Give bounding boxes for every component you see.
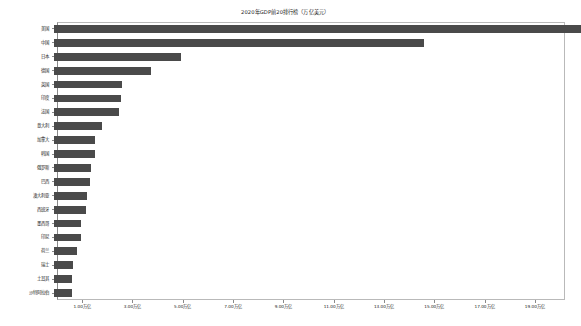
- bar: [54, 234, 81, 242]
- bar-track: [54, 247, 570, 255]
- bar: [54, 289, 72, 297]
- bar-row: 瑞士: [0, 261, 570, 269]
- category-label: 土耳其: [0, 276, 52, 282]
- bar: [54, 67, 151, 75]
- bar: [54, 95, 121, 103]
- bar-row: 加拿大: [0, 136, 570, 144]
- bar-row: 韩国: [0, 150, 570, 158]
- bar: [54, 136, 95, 144]
- bar-row: 西班牙: [0, 206, 570, 214]
- bar-track: [54, 122, 570, 130]
- bar-track: [54, 234, 570, 242]
- bar: [54, 108, 119, 116]
- category-label: 加拿大: [0, 137, 52, 143]
- x-tick-icon: [132, 300, 133, 303]
- bar: [54, 192, 87, 200]
- x-tick-label: 1.00万亿: [73, 304, 90, 310]
- bar: [54, 122, 102, 130]
- bar-track: [54, 25, 570, 33]
- bar-row: 美国: [0, 25, 570, 33]
- x-tick-label: 5.00万亿: [174, 304, 191, 310]
- bar-rows: 美国中国日本德国英国印度法国意大利加拿大韩国俄罗斯巴西澳大利亚西班牙墨西哥印尼荷…: [0, 22, 570, 300]
- bar-row: 澳大利亚: [0, 192, 570, 200]
- x-tick-icon: [233, 300, 234, 303]
- category-label: 日本: [0, 54, 52, 60]
- bar-track: [54, 136, 570, 144]
- bar: [54, 247, 77, 255]
- category-label: 西班牙: [0, 207, 52, 213]
- bar-row: 印尼: [0, 234, 570, 242]
- category-label: 中国: [0, 40, 52, 46]
- chart-title: 2020年GDP前20排行榜（万亿美元）: [0, 9, 570, 16]
- bar-track: [54, 39, 570, 47]
- bar-row: 中国: [0, 39, 570, 47]
- category-label: 巴西: [0, 179, 52, 185]
- x-tick-label: 13.00万亿: [374, 304, 394, 310]
- bar-track: [54, 81, 570, 89]
- x-tick-icon: [535, 300, 536, 303]
- bar-track: [54, 150, 570, 158]
- bar-track: [54, 192, 570, 200]
- x-axis: 1.00万亿3.00万亿5.00万亿7.00万亿9.00万亿11.00万亿13.…: [57, 300, 565, 320]
- category-label: 瑞士: [0, 262, 52, 268]
- category-label: 法国: [0, 109, 52, 115]
- x-tick-label: 11.00万亿: [324, 304, 344, 310]
- category-label: 美国: [0, 26, 52, 32]
- x-tick-icon: [82, 300, 83, 303]
- category-label: 荷兰: [0, 248, 52, 254]
- bar: [54, 53, 181, 61]
- x-tick-icon: [485, 300, 486, 303]
- bar-track: [54, 261, 570, 269]
- bar-row: 英国: [0, 81, 570, 89]
- category-label: 德国: [0, 68, 52, 74]
- bar-row: 印度: [0, 95, 570, 103]
- bar-row: 德国: [0, 67, 570, 75]
- bar-row: 墨西哥: [0, 220, 570, 228]
- bar-track: [54, 164, 570, 172]
- bar-row: 日本: [0, 53, 570, 61]
- bar: [54, 150, 95, 158]
- category-label: 墨西哥: [0, 221, 52, 227]
- category-label: 英国: [0, 82, 52, 88]
- category-label: 沙特阿拉伯: [0, 290, 52, 296]
- bar-row: 沙特阿拉伯: [0, 289, 570, 297]
- bar-row: 俄罗斯: [0, 164, 570, 172]
- x-tick-icon: [384, 300, 385, 303]
- x-tick-label: 3.00万亿: [124, 304, 141, 310]
- x-tick-label: 9.00万亿: [275, 304, 292, 310]
- x-tick-label: 19.00万亿: [525, 304, 545, 310]
- x-tick-icon: [283, 300, 284, 303]
- bar: [54, 164, 91, 172]
- category-label: 俄罗斯: [0, 165, 52, 171]
- x-tick-icon: [334, 300, 335, 303]
- bar: [54, 275, 72, 283]
- bar-row: 意大利: [0, 122, 570, 130]
- x-tick-label: 17.00万亿: [475, 304, 495, 310]
- category-label: 意大利: [0, 123, 52, 129]
- bar: [54, 81, 122, 89]
- bar: [54, 261, 73, 269]
- category-label: 澳大利亚: [0, 193, 52, 199]
- x-tick-label: 7.00万亿: [224, 304, 241, 310]
- bar: [54, 206, 86, 214]
- bar: [54, 25, 581, 33]
- bar: [54, 39, 424, 47]
- bar: [54, 178, 90, 186]
- bar-track: [54, 53, 570, 61]
- category-label: 韩国: [0, 151, 52, 157]
- x-tick-icon: [183, 300, 184, 303]
- bar-row: 法国: [0, 108, 570, 116]
- bar: [54, 220, 81, 228]
- bar-row: 荷兰: [0, 247, 570, 255]
- x-tick-label: 15.00万亿: [424, 304, 444, 310]
- bar-row: 土耳其: [0, 275, 570, 283]
- bar-track: [54, 220, 570, 228]
- x-tick-icon: [434, 300, 435, 303]
- bar-track: [54, 95, 570, 103]
- bar-track: [54, 67, 570, 75]
- bar-track: [54, 275, 570, 283]
- bar-track: [54, 178, 570, 186]
- category-label: 印度: [0, 95, 52, 101]
- bar-track: [54, 206, 570, 214]
